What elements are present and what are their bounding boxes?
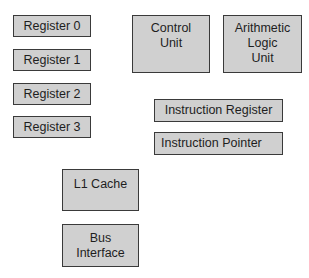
register-0-label: Register 0 [24, 19, 81, 34]
bus-interface-box: Bus Interface [62, 224, 139, 267]
instruction-register-label: Instruction Register [165, 103, 273, 118]
register-1-label: Register 1 [24, 53, 81, 68]
register-2-box: Register 2 [13, 83, 91, 105]
register-2-label: Register 2 [24, 87, 81, 102]
bus-interface-label: Bus Interface [76, 231, 125, 261]
instruction-pointer-label: Instruction Pointer [161, 136, 262, 151]
control-unit-box: Control Unit [132, 15, 210, 73]
control-unit-label: Control Unit [151, 21, 191, 51]
l1-cache-box: L1 Cache [62, 169, 139, 211]
register-1-box: Register 1 [13, 49, 91, 71]
alu-label: Arithmetic Logic Unit [235, 21, 291, 66]
instruction-register-box: Instruction Register [154, 99, 283, 122]
register-0-box: Register 0 [13, 15, 91, 37]
register-3-label: Register 3 [24, 120, 81, 135]
alu-box: Arithmetic Logic Unit [223, 15, 302, 73]
instruction-pointer-box: Instruction Pointer [154, 132, 283, 155]
register-3-box: Register 3 [13, 116, 91, 138]
l1-cache-label: L1 Cache [74, 177, 128, 192]
